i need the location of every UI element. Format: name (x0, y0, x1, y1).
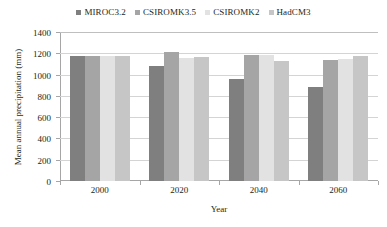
y-axis-tick-label: 200 (38, 156, 52, 165)
legend-entry[interactable]: CSIROMK3.5 (135, 7, 196, 17)
bar (229, 79, 244, 181)
legend-swatch-icon (135, 10, 140, 15)
legend-swatch-icon (269, 10, 274, 15)
y-axis-tick-label: 1000 (33, 71, 51, 80)
bar (115, 56, 130, 181)
bar-chart: MIROC3.2CSIROMK3.5CSIROMK2HadCM3 Mean an… (0, 0, 387, 227)
bar-group (140, 32, 220, 181)
y-axis-tick-label: 400 (38, 135, 52, 144)
chart-legend: MIROC3.2CSIROMK3.5CSIROMK2HadCM3 (0, 7, 387, 17)
legend-label: CSIROMK3.5 (143, 7, 196, 17)
x-axis-tick-labels: 2000202020402060 (60, 185, 378, 195)
bar (323, 60, 338, 181)
legend-entry[interactable]: MIROC3.2 (76, 7, 126, 17)
bar (70, 56, 85, 181)
y-axis-tick-label: 0 (47, 178, 52, 187)
x-axis-tick-label: 2000 (60, 185, 140, 195)
legend-swatch-icon (76, 10, 81, 15)
bar (308, 87, 323, 181)
legend-label: HadCM3 (277, 7, 311, 17)
bar (100, 56, 115, 181)
y-axis-title: Mean annual precipitation (mm) (13, 27, 23, 187)
bar (259, 55, 274, 181)
bar-groups (60, 32, 378, 181)
bar (179, 58, 194, 181)
legend-entry[interactable]: CSIROMK2 (205, 7, 259, 17)
legend-label: MIROC3.2 (84, 7, 126, 17)
y-axis-tick-label: 800 (38, 92, 52, 101)
legend-entry[interactable]: HadCM3 (269, 7, 311, 17)
bar (353, 56, 368, 181)
y-axis-tick-label: 600 (38, 114, 52, 123)
bar (274, 61, 289, 181)
bar-group (60, 32, 140, 181)
y-axis-tick-label: 1200 (33, 50, 51, 59)
x-axis-tick (378, 181, 379, 185)
bar (338, 59, 353, 181)
bar (149, 66, 164, 181)
y-axis-tick-label: 1400 (33, 29, 51, 38)
bar (85, 56, 100, 181)
bar (194, 57, 209, 181)
legend-label: CSIROMK2 (213, 7, 259, 17)
bar-group (219, 32, 299, 181)
x-axis-tick-label: 2020 (140, 185, 220, 195)
bar-group (299, 32, 379, 181)
x-axis-tick-label: 2060 (299, 185, 379, 195)
legend-swatch-icon (205, 10, 210, 15)
bar (244, 55, 259, 181)
x-axis-tick-label: 2040 (219, 185, 299, 195)
bar (164, 52, 179, 181)
x-axis-title: Year (60, 204, 378, 214)
plot-area: 1400120010008006004002000 (60, 32, 378, 181)
